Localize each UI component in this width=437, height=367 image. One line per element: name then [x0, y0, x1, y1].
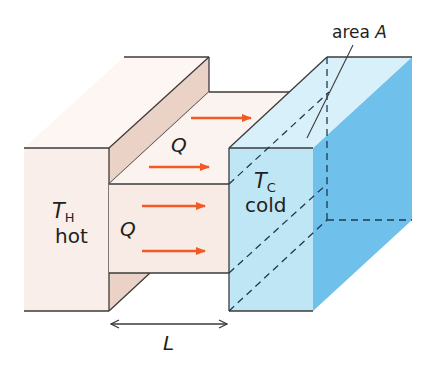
area-label: area A: [332, 22, 387, 42]
heat-q-label-front: Q: [120, 217, 136, 241]
cold-label: cold: [245, 193, 286, 217]
heat-q-label-top: Q: [171, 133, 187, 157]
heat-conduction-diagram: TH hot TC cold Q Q area A L: [0, 0, 437, 367]
length-label: L: [163, 331, 174, 355]
hot-label: hot: [55, 224, 88, 248]
